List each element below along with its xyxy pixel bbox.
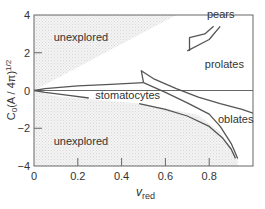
y-tick-label: −2 bbox=[17, 122, 30, 134]
unexplored-region bbox=[34, 91, 238, 167]
y-tick-label: −4 bbox=[17, 160, 30, 172]
region-label-unexplored: unexplored bbox=[54, 31, 108, 43]
x-tick-label: 0.4 bbox=[114, 170, 129, 182]
x-tick-label: 0.8 bbox=[202, 170, 217, 182]
y-axis-label: C0(A / 4π)1/2 bbox=[4, 59, 19, 120]
x-tick-label: 0.6 bbox=[158, 170, 173, 182]
x-tick-label: 0.2 bbox=[70, 170, 85, 182]
y-tick-label: 4 bbox=[24, 9, 30, 21]
pears-boundary-lower-curve bbox=[187, 26, 220, 51]
x-tick-label: 0 bbox=[31, 170, 37, 182]
region-label-unexplored: unexplored bbox=[54, 135, 108, 147]
region-label-prolates: prolates bbox=[205, 58, 245, 70]
region-label-pears: pears bbox=[207, 8, 235, 20]
phase-diagram-chart: 00.20.40.60.8 −4−2024 unexploredunexplor… bbox=[0, 0, 265, 209]
y-tick-label: 2 bbox=[24, 47, 30, 59]
region-label-oblates: oblates bbox=[218, 113, 254, 125]
y-tick-label: 0 bbox=[24, 85, 30, 97]
x-axis-label: vred bbox=[136, 185, 155, 201]
region-label-stomatocytes: stomatocytes bbox=[95, 89, 160, 101]
